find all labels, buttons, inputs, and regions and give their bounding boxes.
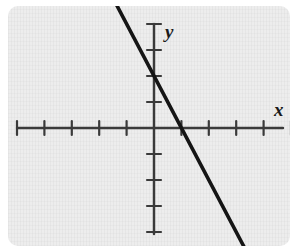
data-line-series xyxy=(110,6,269,246)
graph-screenshot: y x xyxy=(0,0,298,252)
coordinate-plane-plot: y x xyxy=(8,6,290,246)
x-axis-label: x xyxy=(273,99,284,120)
y-axis-label: y xyxy=(163,21,174,42)
graph-panel: y x xyxy=(8,6,290,246)
